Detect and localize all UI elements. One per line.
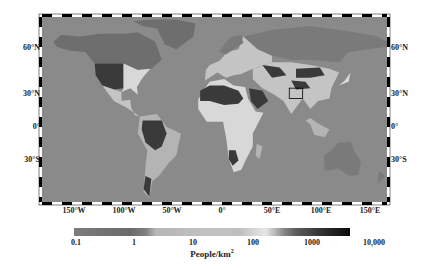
lat-label-30n-left: 30°N [23,89,40,98]
lat-label-30s-left: 30°S [24,155,40,164]
frame-top-segment [222,14,232,17]
lon-label-100w: 100°W [112,206,135,215]
frame-bottom-segment [192,202,202,205]
frame-bottom-segment [332,202,342,205]
frame-top-segment [362,14,372,17]
frame-top-segment [202,14,212,17]
frame-right-segment [387,47,390,57]
frame-left-segment [39,197,42,202]
frame-left-segment [39,177,42,187]
colorbar-title: People/km2 [190,248,234,259]
colorbar [74,228,350,236]
frame-top-segment [322,14,332,17]
frame-top-segment [172,14,182,17]
frame-bottom-segment [312,202,322,205]
frame-bottom-segment [242,202,252,205]
frame-bottom-segment [342,202,352,205]
lat-label-0-right: 0° [391,122,398,131]
frame-top-segment [102,14,112,17]
frame-right-segment [387,97,390,107]
population-density-map: 60°N 30°N 0° 30°S 60°N 30°N 0° 30°S 150°… [0,0,425,269]
frame-bottom-segment [122,202,132,205]
frame-top-segment [352,14,362,17]
frame-right-segment [387,37,390,47]
frame-bottom-segment [132,202,142,205]
frame-top-segment [62,14,72,17]
frame-top-segment [152,14,162,17]
frame-top-segment [342,14,352,17]
frame-bottom-segment [152,202,162,205]
frame-top-segment [112,14,122,17]
frame-bottom-segment [92,202,102,205]
frame-bottom-segment [272,202,282,205]
frame-right-segment [387,117,390,127]
frame-right-segment [387,67,390,77]
lat-label-30s-right: 30°S [391,155,407,164]
frame-right-segment [387,177,390,187]
frame-top-segment [272,14,282,17]
frame-right-segment [387,127,390,137]
frame-top-segment [92,14,102,17]
frame-bottom-segment [182,202,192,205]
frame-right-segment [387,187,390,197]
frame-left-segment [39,167,42,177]
lon-label-0: 0° [218,206,225,215]
frame-bottom-segment [362,202,372,205]
frame-top-segment [282,14,292,17]
frame-right-segment [387,147,390,157]
frame-top-segment [122,14,132,17]
frame-top-segment [382,14,387,17]
frame-top-segment [162,14,172,17]
lat-label-60n-left: 60°N [23,43,40,52]
frame-top-segment [182,14,192,17]
frame-top-segment [242,14,252,17]
frame-bottom-segment [112,202,122,205]
frame-top-segment [192,14,202,17]
frame-bottom-segment [262,202,272,205]
frame-bottom-segment [172,202,182,205]
lon-label-100e: 100°E [311,206,332,215]
frame-bottom-segment [42,202,52,205]
frame-bottom-segment [352,202,362,205]
colorbar-tick-0.1: 0.1 [71,238,81,247]
frame-right-segment [387,197,390,202]
frame-bottom-segment [212,202,222,205]
frame-bottom-segment [302,202,312,205]
frame-bottom-segment [82,202,92,205]
colorbar-tick-10000: 10,000 [363,238,385,247]
frame-bottom-segment [222,202,232,205]
lat-label-30n-right: 30°N [391,89,408,98]
frame-bottom-segment [382,202,387,205]
frame-bottom-segment [72,202,82,205]
frame-left-segment [39,57,42,67]
lon-label-150w: 150°W [62,206,85,215]
lon-label-150e: 150°E [360,206,381,215]
colorbar-tick-10: 10 [189,238,197,247]
lat-label-60n-right: 60°N [391,43,408,52]
lat-label-0-left: 0° [33,122,40,131]
frame-right-segment [387,137,390,147]
frame-top-segment [372,14,382,17]
frame-top-segment [252,14,262,17]
frame-top-segment [302,14,312,17]
frame-top-segment [42,14,52,17]
frame-left-segment [39,97,42,107]
frame-top-segment [142,14,152,17]
frame-bottom-segment [142,202,152,205]
frame-top-segment [132,14,142,17]
frame-top-segment [332,14,342,17]
frame-top-segment [232,14,242,17]
frame-bottom-segment [232,202,242,205]
frame-right-segment [387,167,390,177]
frame-right-segment [387,107,390,117]
colorbar-tick-100: 100 [247,238,259,247]
frame-top-segment [82,14,92,17]
frame-top-segment [72,14,82,17]
colorbar-tick-1000: 1000 [304,238,320,247]
frame-right-segment [387,57,390,67]
frame-right-segment [387,27,390,37]
frame-top-segment [52,14,62,17]
frame-left-segment [39,67,42,77]
frame-left-segment [39,77,42,87]
frame-bottom-segment [52,202,62,205]
